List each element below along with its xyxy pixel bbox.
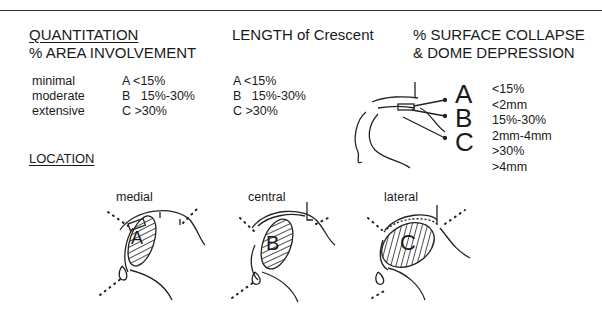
central-diagram (232, 202, 335, 302)
location-letter-a: A (131, 228, 143, 249)
collapse-diagram (355, 82, 446, 168)
medial-diagram (100, 208, 205, 300)
lateral-diagram (368, 205, 470, 300)
drawings (0, 0, 602, 310)
location-letter-b: B (266, 232, 279, 255)
location-letter-c: C (400, 230, 416, 256)
